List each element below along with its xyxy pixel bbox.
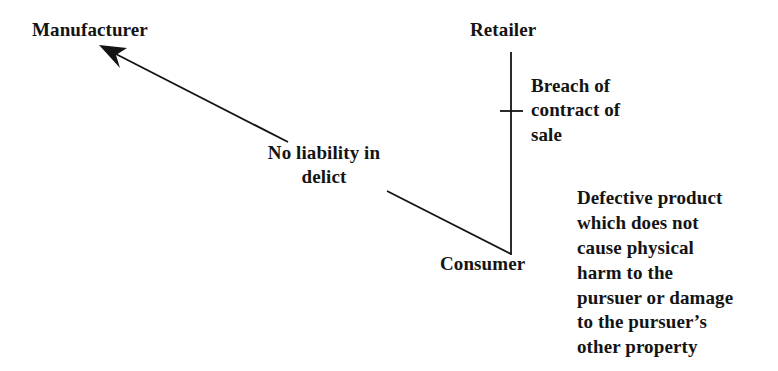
note-line-2: which does not (577, 211, 777, 236)
edge-label-breach-line-2: contract of (531, 98, 651, 122)
node-consumer: Consumer (440, 254, 525, 274)
no-liability-arrow-line (110, 51, 288, 142)
note-line-7: other property (577, 335, 777, 360)
note-line-6: to the pursuer’s (577, 310, 777, 335)
edge-consumer-to-manufacturer (99, 45, 288, 142)
note-line-1: Defective product (577, 186, 777, 211)
note-line-5: pursuer or damage (577, 286, 777, 311)
edge-label-breach-line-3: sale (531, 123, 651, 147)
node-retailer: Retailer (470, 20, 536, 40)
edge-label-breach-line-1: Breach of (531, 74, 651, 98)
edge-delict-to-consumer (387, 191, 511, 254)
note-defective-product: Defective product which does not cause p… (577, 186, 777, 360)
arrow-head-icon (99, 45, 127, 68)
diagram-canvas: Manufacturer Retailer Consumer No liabil… (0, 0, 778, 371)
note-line-4: harm to the (577, 261, 777, 286)
note-line-3: cause physical (577, 236, 777, 261)
edge-retailer-to-consumer (500, 52, 523, 255)
edge-label-breach-of-contract-of-sale: Breach of contract of sale (531, 74, 651, 147)
edge-label-no-liability-line-1: No liability in (249, 141, 399, 165)
edge-label-no-liability-in-delict: No liability in delict (249, 141, 399, 190)
node-manufacturer: Manufacturer (32, 20, 148, 40)
edge-label-no-liability-line-2: delict (249, 165, 399, 189)
delict-consumer-line (387, 191, 511, 254)
